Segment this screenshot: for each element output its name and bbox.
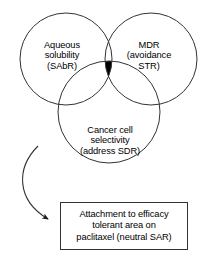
circle-label-cancer-cell-selectivity: Cancer cell selectivity (address SDR) bbox=[60, 125, 160, 156]
circle-label-mdr-avoidance: MDR (avoidance STR) bbox=[108, 40, 190, 71]
outcome-box-text: Attachment to efficacy tolerant area on … bbox=[73, 209, 174, 242]
curved-arrow bbox=[23, 146, 48, 219]
venn-diagram-figure: Aqueous solubility (SAbR) MDR (avoidance… bbox=[0, 0, 212, 259]
outcome-box: Attachment to efficacy tolerant area on … bbox=[60, 202, 188, 250]
circle-label-aqueous-solubility: Aqueous solubility (SAbR) bbox=[22, 40, 102, 71]
